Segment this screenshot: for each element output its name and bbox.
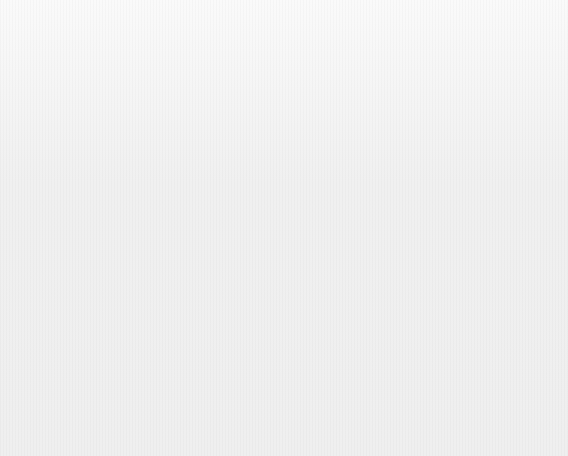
panel-b-bar: [401, 291, 457, 316]
victims-count-cell: 9: [219, 368, 275, 393]
row-event: Stampede: [286, 304, 396, 317]
axis-tick: [429, 53, 430, 57]
axis-tick-label: 1,000: [446, 40, 469, 50]
axis-tick-label: 6: [178, 40, 183, 50]
axis-tick-label: 0: [137, 40, 142, 50]
panel-a-axis: 0246810: [140, 53, 207, 59]
panel-b-row: Latin AmericaHurricane Stan: [0, 138, 568, 176]
victims-count-cell: 34: [219, 100, 275, 125]
panel-b-bar: [401, 253, 466, 278]
victims-count-cell: 1,150: [219, 291, 275, 316]
row-place: India/Bangladesh/Nepal: [286, 368, 396, 381]
axis-tick: [167, 53, 168, 57]
row-event: Hurricane Katrina: [286, 189, 396, 202]
row-event: Cold weather: [286, 113, 396, 126]
panel-b-row-label: IranEarthquake: [286, 329, 396, 354]
figure-container: (a) Insurance losses ($bn) No. of victim…: [0, 0, 568, 456]
victims-header-line1: No. of victims: [222, 18, 285, 30]
panel-b-bar: [401, 215, 474, 240]
row-place: USA/Bahamas: [286, 177, 396, 190]
panel-b-row: PakistanCold weather: [0, 100, 568, 138]
axis-tick-label: 500: [422, 40, 437, 50]
panel-b-row: IranEarthquake: [0, 329, 568, 367]
victims-count-cell: 1,326: [219, 62, 275, 87]
panel-b-bar: [401, 406, 424, 431]
panel-b-row: IndiaFloods and landslides: [0, 253, 568, 291]
panel-b-bar-value: 73,300: [506, 62, 538, 87]
panel-b-bar: [401, 100, 514, 125]
row-place: Iraq: [286, 291, 396, 304]
panel-b-row-label: IndiaStampede: [286, 406, 396, 431]
row-event: Floods and landslides: [286, 266, 396, 279]
axis-tick: [514, 53, 515, 57]
panel-b-baseline: [401, 53, 403, 438]
panel-b-row: USA/BahamasHurricane Katrina: [0, 177, 568, 215]
bar-break-zigzag-icon: [483, 62, 495, 87]
axis-tick: [486, 53, 487, 57]
panel-a-baseline: [140, 53, 142, 438]
row-place: Latin America: [286, 138, 396, 151]
panel-b-row-label: PakistanCold weather: [286, 100, 396, 125]
row-place: India: [286, 406, 396, 419]
axis-tick-label: 2,500: [531, 40, 554, 50]
victims-count-cell: n.a.: [219, 329, 275, 354]
panel-b-row-label: USA/BahamasHurricane Katrina: [286, 177, 396, 202]
axis-tick-label: 4: [164, 40, 169, 50]
victims-count-cell: 65: [219, 253, 275, 278]
axis-tick: [542, 53, 543, 57]
axis-tick: [194, 53, 195, 57]
bar-break-marker: [483, 62, 495, 87]
axis-tick-label: 8: [191, 40, 196, 50]
row-place: Pakistan: [286, 100, 396, 113]
row-event: Stampede: [286, 418, 396, 431]
row-place: Pakistan/India: [286, 62, 396, 75]
row-event: Earthquake: [286, 342, 396, 355]
panel-a-title: (a) Insurance losses ($bn): [32, 18, 222, 30]
row-event: Earthquake: [286, 75, 396, 88]
axis-tick: [180, 53, 181, 57]
row-place: India: [286, 253, 396, 266]
panel-b-bar: [401, 368, 426, 393]
panel-b-row: Pakistan/IndiaEarthquake73,300: [0, 62, 568, 100]
panel-b-row-label: Latin AmericaHurricane Stan: [286, 138, 396, 163]
victims-count-cell: 35: [219, 138, 275, 163]
panel-b-row: IndiaStampede: [0, 406, 568, 444]
panel-b-bar: 73,300: [401, 62, 542, 87]
axis-tick-label: 2: [151, 40, 156, 50]
axis-tick: [153, 53, 154, 57]
axis-line: [401, 53, 542, 54]
axis-tick-label: 2,000: [503, 40, 526, 50]
victims-count-cell: 49: [219, 215, 275, 240]
panel-b-row: India/Bangladesh/NepalHeatwave: [0, 368, 568, 406]
panel-b-bar: [401, 177, 477, 202]
panel-b-row-label: Pakistan/IndiaEarthquake: [286, 62, 396, 87]
panel-b-row-label: IraqStampede: [286, 291, 396, 316]
victims-header-line2: dead or missing: [236, 31, 272, 56]
axis-tick: [457, 53, 458, 57]
panel-b-row-label: IndiaFloods and landslides: [286, 253, 396, 278]
row-event: Hurricane Stan: [286, 151, 396, 164]
panel-b-bar: [401, 138, 491, 163]
panel-b-bar: [401, 329, 443, 354]
panel-b-row-label: India/Bangladesh/NepalHeatwave: [286, 368, 396, 393]
panel-b-row: IraqStampede: [0, 291, 568, 329]
axis-tick-label: 0: [398, 40, 403, 50]
row-event: Heatwave: [286, 380, 396, 393]
row-place: Iran: [286, 329, 396, 342]
panel-b-axis: 05001,0001,5002,0002,500: [401, 53, 542, 59]
axis-tick: [207, 53, 208, 57]
row-place: Indonesia: [286, 215, 396, 228]
victims-count-cell: 18: [219, 177, 275, 202]
axis-tick-label: 1,500: [474, 40, 497, 50]
victims-count-cell: 34: [219, 406, 275, 431]
panel-b-row-label: IndonesiaEarthquake: [286, 215, 396, 240]
panel-b-title: (b) Number of victims dead or missing: [300, 18, 560, 30]
victims-column-header: No. of victims dead or missing: [219, 18, 289, 56]
axis-tick-label: 10: [202, 40, 212, 50]
panel-b-row: IndonesiaEarthquake: [0, 215, 568, 253]
axis-line: [140, 53, 207, 54]
row-event: Earthquake: [286, 227, 396, 240]
